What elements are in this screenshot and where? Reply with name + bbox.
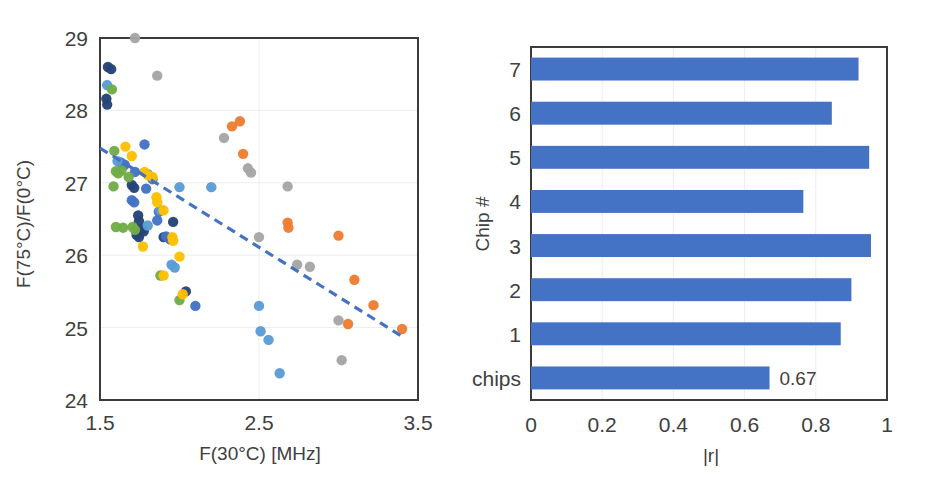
- scatter-point: [130, 225, 140, 235]
- bar-panel: 0.67 00.20.40.60.81 All chips1234567 |r|…: [466, 0, 931, 489]
- scatter-panel: 2425262728291.52.53.5 F(30°C) [MHz] F(75…: [0, 0, 466, 489]
- scatter-chart-svg: 2425262728291.52.53.5 F(30°C) [MHz] F(75…: [0, 0, 466, 489]
- bar-rect: [531, 146, 869, 169]
- bar-category-label: 3: [509, 235, 521, 258]
- scatter-point: [168, 217, 178, 227]
- bar-category-label: 6: [509, 102, 521, 125]
- scatter-data-points: [101, 33, 407, 379]
- bar-category-label: 1: [509, 323, 521, 346]
- scatter-point: [152, 70, 162, 80]
- bar-x-tick-label: 0.2: [588, 413, 617, 436]
- scatter-point: [141, 183, 151, 193]
- scatter-y-tick-label: 29: [65, 27, 88, 50]
- scatter-y-tick-label: 25: [65, 317, 88, 340]
- bar-x-tick-label: 0.4: [659, 413, 689, 436]
- bar-chart-svg: 0.67 00.20.40.60.81 All chips1234567 |r|…: [466, 0, 931, 489]
- scatter-point: [139, 139, 149, 149]
- bar-gridlines: [602, 47, 816, 400]
- bar-x-tick-label: 0.8: [801, 413, 830, 436]
- bar-rect: [531, 278, 851, 301]
- scatter-y-tick-label: 24: [65, 389, 89, 412]
- scatter-point: [158, 270, 168, 280]
- scatter-point: [111, 222, 121, 232]
- scatter-point: [254, 232, 264, 242]
- scatter-point: [129, 197, 139, 207]
- bar-rect: [531, 102, 832, 125]
- scatter-point: [170, 262, 180, 272]
- scatter-point: [107, 84, 117, 94]
- bar-category-label: 2: [509, 279, 521, 302]
- scatter-point: [255, 326, 265, 336]
- scatter-point: [336, 355, 346, 365]
- bar-category-label: 4: [509, 190, 521, 213]
- scatter-point: [152, 215, 162, 225]
- scatter-y-tick-label: 27: [65, 172, 88, 195]
- scatter-point: [143, 220, 153, 230]
- scatter-point: [238, 149, 248, 159]
- bar-plot-frame: [531, 47, 887, 400]
- bar-x-tick-label: 0: [525, 413, 537, 436]
- bar-rect: [531, 58, 859, 81]
- bar-rect: [531, 234, 871, 257]
- bar-category-label: 5: [509, 146, 521, 169]
- scatter-x-tick-label: 2.5: [244, 411, 273, 434]
- scatter-point: [127, 151, 137, 161]
- scatter-point: [246, 167, 256, 177]
- bar-x-tick-label: 0.6: [730, 413, 759, 436]
- scatter-point: [333, 230, 343, 240]
- scatter-point: [368, 300, 378, 310]
- scatter-point: [102, 99, 112, 109]
- scatter-point: [349, 275, 359, 285]
- scatter-point: [174, 251, 184, 261]
- scatter-point: [108, 181, 118, 191]
- scatter-point: [282, 181, 292, 191]
- figure-container: 2425262728291.52.53.5 F(30°C) [MHz] F(75…: [0, 0, 931, 489]
- scatter-point: [158, 205, 168, 215]
- scatter-point: [219, 133, 229, 143]
- bar-x-tick-label: 1: [881, 413, 893, 436]
- scatter-y-tick-label: 26: [65, 244, 88, 267]
- bar-rect: [531, 190, 803, 213]
- scatter-point: [343, 319, 353, 329]
- scatter-point: [120, 141, 130, 151]
- scatter-point: [190, 301, 200, 311]
- bar-y-axis-title: Chip #: [472, 196, 493, 251]
- bar-axis-box: [531, 47, 887, 400]
- scatter-point: [305, 262, 315, 272]
- bar-category-label: 7: [509, 58, 521, 81]
- scatter-y-axis-title: F(75°C)/F(0°C): [13, 160, 34, 288]
- bar-value-label: 0.67: [780, 368, 817, 389]
- scatter-point: [333, 315, 343, 325]
- scatter-point: [174, 182, 184, 192]
- scatter-point: [129, 183, 139, 193]
- bar-category-label: All chips: [466, 367, 521, 390]
- scatter-gridlines: [100, 38, 418, 400]
- bar-tick-labels: 00.20.40.60.81: [525, 413, 893, 436]
- bar-x-axis-title: |r|: [703, 445, 719, 466]
- scatter-x-axis-title: F(30°C) [MHz]: [199, 443, 321, 464]
- scatter-x-tick-label: 1.5: [85, 411, 114, 434]
- scatter-point: [263, 335, 273, 345]
- bar-data-labels: 0.67: [780, 368, 817, 389]
- scatter-point: [138, 241, 148, 251]
- scatter-point: [123, 172, 133, 182]
- scatter-point: [227, 121, 237, 131]
- scatter-point: [106, 64, 116, 74]
- scatter-point: [274, 368, 284, 378]
- scatter-x-tick-label: 3.5: [403, 411, 432, 434]
- scatter-y-tick-label: 28: [65, 99, 88, 122]
- bar-rect: [531, 322, 841, 345]
- scatter-point: [177, 289, 187, 299]
- scatter-point: [283, 222, 293, 232]
- scatter-point: [254, 301, 264, 311]
- scatter-point: [130, 33, 140, 43]
- scatter-point: [206, 182, 216, 192]
- scatter-point: [168, 236, 178, 246]
- bar-rect: [531, 366, 770, 389]
- bar-series: [531, 58, 871, 390]
- scatter-point: [109, 146, 119, 156]
